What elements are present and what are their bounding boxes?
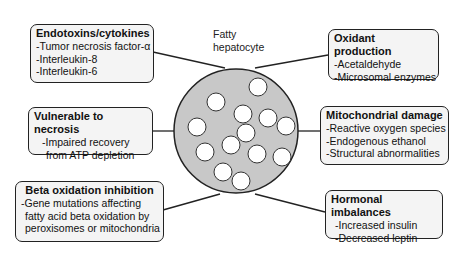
fat-vacuole bbox=[273, 148, 291, 166]
fat-vacuole bbox=[196, 143, 214, 161]
fat-vacuole bbox=[207, 93, 225, 111]
box-item: peroxisomes or mitochondria bbox=[21, 222, 158, 235]
box-title: Beta oxidation inhibition bbox=[21, 184, 158, 197]
fat-vacuole bbox=[232, 172, 250, 190]
connector-oxidant bbox=[255, 55, 328, 68]
box-title: Endotoxins/cytokines bbox=[36, 27, 148, 40]
box-item: -Structural abnormalities bbox=[326, 147, 443, 160]
connector-beta bbox=[163, 194, 220, 210]
connector-hormonal bbox=[255, 194, 325, 212]
box-item: -Interleukin-8 bbox=[36, 53, 148, 66]
box-item: -Microsomal enzymes bbox=[334, 71, 433, 84]
box-title: Vulnerable to necrosis bbox=[34, 110, 147, 136]
label-line: hepatocyte bbox=[213, 41, 264, 54]
fatty-hepatocyte-label: Fatty hepatocyte bbox=[213, 28, 264, 53]
fat-vacuole bbox=[222, 136, 240, 154]
fat-vacuole bbox=[259, 109, 277, 127]
box-item: -Acetaldehyde bbox=[334, 58, 433, 71]
box-item: -Interleukin-6 bbox=[36, 65, 148, 78]
fat-vacuole bbox=[214, 163, 232, 181]
box-title: Mitochondrial damage bbox=[326, 109, 443, 122]
box-mitochondrial-damage: Mitochondrial damage -Reactive oxygen sp… bbox=[320, 106, 449, 165]
box-title: Oxidant production bbox=[334, 32, 433, 58]
box-item: -Tumor necrosis factor-α bbox=[36, 40, 148, 53]
fat-vacuole bbox=[237, 124, 255, 142]
fat-vacuole bbox=[248, 145, 266, 163]
fat-vacuole bbox=[188, 118, 206, 136]
box-title: Hormonal imbalances bbox=[331, 193, 437, 219]
box-item: -Decreased leptin bbox=[331, 232, 437, 245]
box-item: -Impaired recovery bbox=[34, 136, 147, 149]
label-line: Fatty bbox=[213, 28, 264, 41]
box-hormonal-imbalances: Hormonal imbalances -Increased insulin -… bbox=[325, 190, 443, 239]
box-item: -Increased insulin bbox=[331, 219, 437, 232]
connector-endotoxins bbox=[153, 52, 225, 68]
box-item: from ATP depletion bbox=[34, 149, 147, 162]
box-item: -Gene mutations affecting bbox=[21, 197, 158, 210]
box-endotoxins-cytokines: Endotoxins/cytokines -Tumor necrosis fac… bbox=[30, 24, 154, 83]
box-beta-oxidation-inhibition: Beta oxidation inhibition -Gene mutation… bbox=[15, 181, 164, 242]
box-vulnerable-to-necrosis: Vulnerable to necrosis -Impaired recover… bbox=[28, 107, 153, 155]
box-item: fatty acid beta oxidation by bbox=[21, 210, 158, 223]
box-item: -Reactive oxygen species bbox=[326, 122, 443, 135]
fat-vacuole bbox=[277, 117, 295, 135]
box-item: -Endogenous ethanol bbox=[326, 135, 443, 148]
box-oxidant-production: Oxidant production -Acetaldehyde -Micros… bbox=[328, 29, 439, 80]
fat-vacuole bbox=[234, 105, 252, 123]
fat-vacuole bbox=[249, 78, 267, 96]
